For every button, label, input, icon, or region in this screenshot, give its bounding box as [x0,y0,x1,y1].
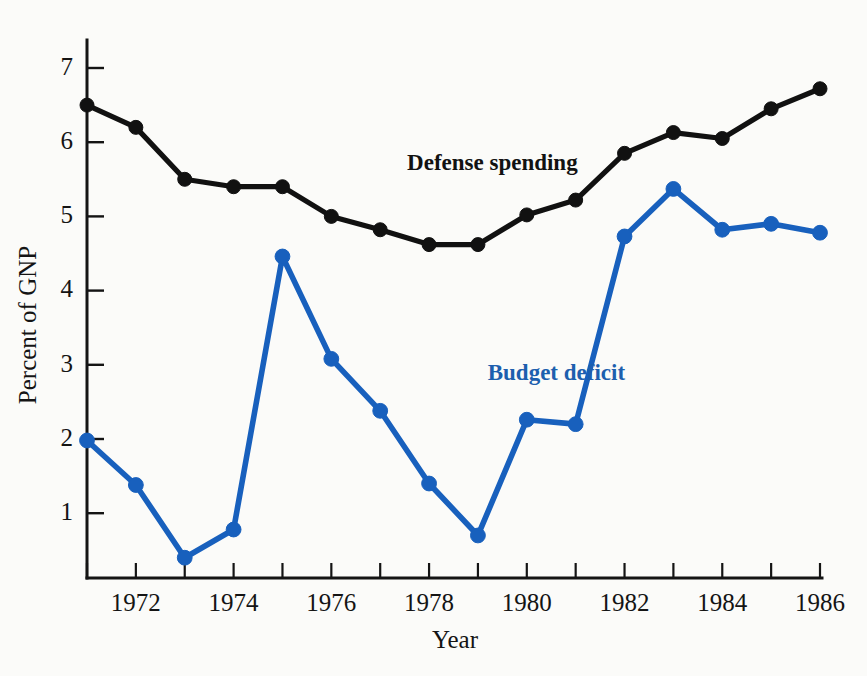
data-point-budget-deficit-1978 [422,476,437,491]
y-tick-label-5: 5 [61,201,74,228]
y-tick-label-group: 1234567 [61,53,74,525]
data-point-defense-spending-1976 [324,209,338,223]
data-point-budget-deficit-1985 [764,216,779,231]
data-point-defense-spending-1985 [764,102,778,116]
x-tick-label-1980: 1980 [502,589,552,616]
data-point-defense-spending-1974 [227,180,241,194]
x-axis-title: Year [432,626,479,653]
x-tick-label-1978: 1978 [404,589,454,616]
data-point-budget-deficit-1972 [128,478,143,493]
data-point-defense-spending-1975 [275,180,289,194]
series-label-budget-deficit: Budget deficit [488,360,626,385]
y-tick-label-2: 2 [61,424,74,451]
axes-group [87,40,822,578]
data-point-budget-deficit-1983 [666,182,681,197]
y-tick-label-7: 7 [61,53,74,80]
y-tick-label-3: 3 [61,350,74,377]
data-point-budget-deficit-1980 [519,412,534,427]
x-tick-label-1974: 1974 [209,589,260,616]
data-point-budget-deficit-1974 [226,522,241,537]
x-tick-label-1982: 1982 [600,589,650,616]
data-point-budget-deficit-1979 [471,528,486,543]
x-tick-group [87,563,820,578]
data-point-defense-spending-1971 [80,98,94,112]
data-point-defense-spending-1984 [715,131,729,145]
line-chart-svg: 1234567 19721974197619781980198219841986… [0,0,867,676]
data-point-budget-deficit-1986 [813,225,828,240]
data-point-budget-deficit-1982 [617,229,632,244]
data-point-budget-deficit-1984 [715,222,730,237]
x-tick-label-1976: 1976 [306,589,356,616]
y-tick-label-1: 1 [61,498,74,525]
data-point-defense-spending-1982 [618,146,632,160]
data-point-budget-deficit-1981 [568,417,583,432]
data-point-defense-spending-1973 [178,172,192,186]
data-point-budget-deficit-1975 [275,249,290,264]
data-point-defense-spending-1979 [471,238,485,252]
x-tick-label-group: 19721974197619781980198219841986 [111,589,845,616]
data-point-budget-deficit-1977 [373,403,388,418]
x-tick-label-1984: 1984 [697,589,748,616]
data-point-budget-deficit-1973 [177,550,192,565]
data-point-defense-spending-1978 [422,238,436,252]
y-tick-label-4: 4 [61,275,74,302]
data-point-defense-spending-1981 [569,193,583,207]
series-label-defense-spending: Defense spending [407,150,578,175]
data-point-defense-spending-1983 [666,126,680,140]
data-point-defense-spending-1986 [813,82,827,96]
data-point-defense-spending-1977 [373,223,387,237]
x-tick-label-1972: 1972 [111,589,161,616]
y-tick-label-6: 6 [61,127,74,154]
data-point-budget-deficit-1976 [324,351,339,366]
y-axis-title: Percent of GNP [14,246,41,404]
x-tick-label-1986: 1986 [795,589,845,616]
data-point-budget-deficit-1971 [80,433,95,448]
data-point-defense-spending-1972 [129,120,143,134]
chart-figure: 1234567 19721974197619781980198219841986… [0,0,867,676]
data-point-defense-spending-1980 [520,208,534,222]
